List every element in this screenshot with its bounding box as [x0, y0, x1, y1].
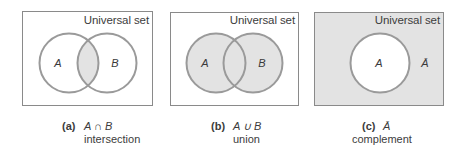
caption-complement: (c) Ā complement — [350, 120, 410, 148]
caption-expression: A ∪ B — [233, 120, 261, 133]
set-b-label: B — [111, 57, 118, 69]
set-a-label: A — [53, 57, 61, 69]
panel-complement: Universal set A Ā — [315, 13, 444, 106]
caption-letter: (c) — [362, 120, 375, 133]
universal-set-label: Universal set — [84, 14, 150, 26]
caption-name: union — [233, 133, 260, 146]
caption-name: intersection — [84, 133, 140, 146]
caption-letter: (b) — [211, 120, 225, 133]
caption-letter: (a) — [62, 120, 75, 133]
panel-intersection: Universal set A B — [23, 12, 153, 106]
caption-expression: A ∩ B — [84, 120, 112, 133]
panel-union: Universal set A B — [171, 13, 299, 106]
caption-union: (b) A ∪ B union — [211, 120, 281, 148]
caption-intersection: (a) A ∩ B intersection — [62, 120, 152, 148]
universal-set-label: Universal set — [230, 14, 296, 26]
caption-name: complement — [352, 133, 412, 146]
set-a-label: A — [200, 57, 208, 69]
set-a-label: A — [374, 57, 382, 69]
complement-label: Ā — [420, 57, 428, 69]
universal-set-label: Universal set — [375, 14, 441, 26]
set-b-label: B — [258, 57, 265, 69]
caption-expression: Ā — [383, 120, 390, 133]
